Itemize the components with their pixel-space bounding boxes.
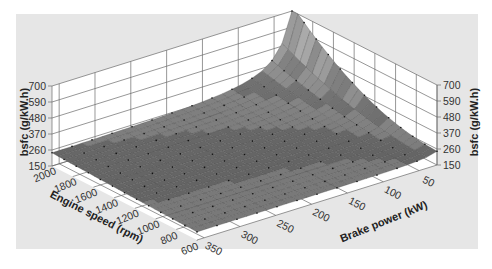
data-point <box>260 180 262 182</box>
z-axis-label-left: bsfc (g/kW.h) <box>18 87 30 156</box>
data-point <box>284 193 286 195</box>
data-point <box>204 218 206 220</box>
z-tick-right: 260 <box>443 143 461 155</box>
data-point <box>203 112 205 114</box>
data-point <box>263 86 265 88</box>
data-point <box>315 38 317 40</box>
data-point <box>404 154 406 156</box>
data-point <box>220 193 222 195</box>
data-point <box>156 192 158 194</box>
data-point <box>400 127 402 129</box>
data-point <box>280 119 282 121</box>
data-point <box>183 119 185 121</box>
data-point <box>240 186 242 188</box>
data-point <box>71 146 73 148</box>
data-point <box>227 126 229 128</box>
data-point <box>296 200 298 202</box>
data-point <box>204 167 206 169</box>
data-point <box>200 199 202 201</box>
data-point <box>152 173 154 175</box>
data-point <box>88 172 90 174</box>
z-tick-right: 590 <box>443 95 461 107</box>
z-axis-label-right: bsfc (g/kW.h) <box>468 87 480 156</box>
data-point <box>348 140 350 142</box>
data-point <box>131 126 133 128</box>
data-point <box>308 89 310 91</box>
data-point <box>288 102 290 104</box>
data-point <box>388 117 390 119</box>
data-point <box>212 206 214 208</box>
data-point <box>372 154 374 156</box>
data-point <box>168 146 170 148</box>
data-point <box>244 154 246 156</box>
data-point <box>180 205 182 207</box>
data-point <box>120 172 122 174</box>
data-point <box>232 147 234 149</box>
data-point <box>360 148 362 150</box>
data-point <box>384 161 386 163</box>
data-point <box>192 212 194 214</box>
z-tick-left: 700 <box>28 80 46 92</box>
data-point <box>368 132 370 134</box>
z-tick-right: 480 <box>443 111 461 123</box>
data-point <box>284 140 286 142</box>
data-point <box>148 153 150 155</box>
data-point <box>216 225 218 227</box>
data-point <box>243 96 245 98</box>
data-point <box>144 186 146 188</box>
data-point <box>424 143 426 145</box>
data-point <box>316 141 318 143</box>
data-point <box>300 110 302 112</box>
data-point <box>336 133 338 135</box>
data-point <box>143 133 145 135</box>
data-point <box>215 119 217 121</box>
data-point <box>255 104 257 106</box>
data-point <box>392 147 394 149</box>
data-point <box>135 146 137 148</box>
data-point <box>172 166 174 168</box>
data-point <box>115 153 117 155</box>
data-point <box>240 133 242 135</box>
data-point <box>283 70 285 72</box>
data-point <box>376 106 378 108</box>
data-point <box>108 166 110 168</box>
data-point <box>364 95 366 97</box>
z-tick-left: 260 <box>28 144 46 156</box>
data-point <box>260 126 262 128</box>
data-point <box>171 112 173 114</box>
data-point <box>324 126 326 128</box>
data-point <box>344 174 346 176</box>
data-point <box>195 126 197 128</box>
data-point <box>256 212 258 214</box>
data-point <box>275 94 277 96</box>
data-point <box>340 68 342 70</box>
data-point <box>220 140 222 142</box>
data-point <box>416 161 418 163</box>
data-point <box>111 133 113 135</box>
data-point <box>303 22 305 24</box>
data-point <box>396 168 398 170</box>
data-point <box>352 161 354 163</box>
data-point <box>436 150 438 152</box>
data-point <box>231 89 233 91</box>
data-point <box>328 54 330 56</box>
data-point <box>300 167 302 169</box>
data-point <box>124 192 126 194</box>
data-point <box>223 105 225 107</box>
data-point <box>95 159 97 161</box>
data-point <box>271 60 273 62</box>
z-tick-right: 150 <box>443 159 461 171</box>
data-point <box>324 181 326 183</box>
data-point <box>140 166 142 168</box>
data-point <box>184 225 186 227</box>
data-point <box>155 140 157 142</box>
data-point <box>132 179 134 181</box>
data-point <box>164 179 166 181</box>
data-point <box>176 186 178 188</box>
data-point <box>364 168 366 170</box>
data-point <box>228 180 230 182</box>
z-tick-left: 370 <box>28 128 46 140</box>
data-point <box>291 10 293 12</box>
data-point <box>295 80 297 82</box>
data-point <box>268 112 270 114</box>
